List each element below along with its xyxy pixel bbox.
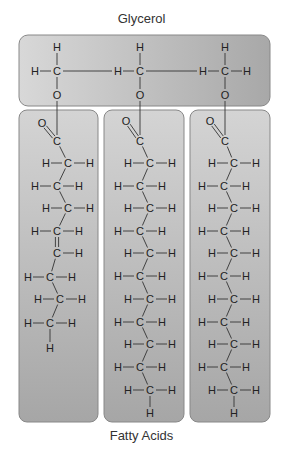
hydrogen: H [53, 41, 61, 53]
hydrogen: H [124, 247, 132, 259]
hydrogen: H [68, 271, 76, 283]
hydrogen: H [208, 202, 216, 214]
hydrogen: H [124, 202, 132, 214]
hydrogen: H [124, 157, 132, 169]
triglyceride-diagram: CHOHCHOHCHOHHOCCHHCHHCHHCHHCHCHHCHHCHHHO… [0, 0, 283, 449]
hydrogen: H [136, 41, 144, 53]
hydrogen: H [198, 180, 206, 192]
carbonyl-carbon: C [53, 135, 61, 147]
chain-carbon: C [136, 316, 144, 328]
chain-carbon: C [64, 157, 72, 169]
hydrogen: H [198, 270, 206, 282]
hydrogen: H [24, 271, 32, 283]
carbonyl-carbon: C [136, 135, 144, 147]
carbonyl-oxygen: O [206, 115, 215, 127]
hydrogen: H [24, 317, 32, 329]
hydrogen: H [198, 361, 206, 373]
hydrogen: H [221, 41, 229, 53]
hydrogen: H [124, 293, 132, 305]
chain-carbon: C [230, 247, 238, 259]
chain-carbon: C [46, 317, 54, 329]
hydrogen: H [114, 270, 122, 282]
chain-carbon: C [136, 180, 144, 192]
chain-carbon: C [220, 180, 228, 192]
hydrogen: H [75, 180, 83, 192]
chain-carbon: C [220, 225, 228, 237]
chain-carbon: C [230, 157, 238, 169]
hydrogen: H [86, 157, 94, 169]
hydrogen: H [242, 180, 250, 192]
hydrogen: H [114, 225, 122, 237]
hydrogen: H [242, 225, 250, 237]
chain-carbon: C [146, 293, 154, 305]
hydrogen: H [158, 225, 166, 237]
carbonyl-oxygen: O [38, 117, 47, 129]
hydrogen: H [158, 270, 166, 282]
hydrogen: H [252, 157, 260, 169]
chain-carbon: C [53, 225, 61, 237]
chain-carbon: C [46, 271, 54, 283]
hydrogen: H [31, 225, 39, 237]
chain-carbon: C [220, 361, 228, 373]
hydrogen: H [208, 247, 216, 259]
hydrogen: H [78, 293, 86, 305]
chain-carbon: C [146, 338, 154, 350]
hydrogen: H [168, 157, 176, 169]
hydrogen: H [34, 293, 42, 305]
chain-carbon: C [220, 270, 228, 282]
chain-carbon: C [64, 202, 72, 214]
hydrogen: H [252, 293, 260, 305]
chain-carbon: C [230, 293, 238, 305]
hydrogen: H [168, 202, 176, 214]
glycerol-oxygen: O [53, 89, 62, 101]
glycerol-carbon: C [53, 65, 61, 77]
hydrogen: H [86, 202, 94, 214]
chain-carbon: C [146, 384, 154, 396]
chain-carbon: C [136, 361, 144, 373]
glycerol-carbon: C [221, 65, 229, 77]
hydrogen: H [168, 384, 176, 396]
hydrogen: H [158, 180, 166, 192]
glycerol-carbon: C [136, 65, 144, 77]
terminal-hydrogen: H [46, 342, 54, 354]
hydrogen: H [208, 293, 216, 305]
hydrogen: H [124, 338, 132, 350]
hydrogen: H [75, 225, 83, 237]
hydrogen: H [199, 65, 207, 77]
hydrogen: H [124, 384, 132, 396]
hydrogen: H [42, 202, 50, 214]
hydrogen: H [208, 338, 216, 350]
chain-carbon: C [230, 384, 238, 396]
hydrogen: H [252, 384, 260, 396]
chain-carbon: C [56, 293, 64, 305]
hydrogen: H [114, 316, 122, 328]
hydrogen: H [31, 180, 39, 192]
hydrogen: H [168, 293, 176, 305]
carbonyl-carbon: C [221, 135, 229, 147]
hydrogen: H [114, 65, 122, 77]
hydrogen: H [208, 157, 216, 169]
hydrogen: H [252, 247, 260, 259]
hydrogen: H [31, 65, 39, 77]
hydrogen: H [114, 180, 122, 192]
hydrogen: H [75, 247, 83, 259]
hydrogen: H [242, 361, 250, 373]
glycerol-oxygen: O [221, 89, 230, 101]
hydrogen: H [114, 361, 122, 373]
glycerol-oxygen: O [136, 89, 145, 101]
hydrogen: H [252, 202, 260, 214]
hydrogen: H [168, 338, 176, 350]
hydrogen: H [242, 316, 250, 328]
hydrogen: H [243, 65, 251, 77]
hydrogen: H [242, 270, 250, 282]
hydrogen: H [158, 316, 166, 328]
chain-carbon: C [220, 316, 228, 328]
hydrogen: H [68, 317, 76, 329]
hydrogen: H [198, 316, 206, 328]
chain-carbon: C [53, 180, 61, 192]
hydrogen: H [158, 361, 166, 373]
terminal-hydrogen: H [146, 407, 154, 419]
hydrogen: H [252, 338, 260, 350]
carbonyl-oxygen: O [122, 115, 131, 127]
chain-carbon: C [146, 247, 154, 259]
